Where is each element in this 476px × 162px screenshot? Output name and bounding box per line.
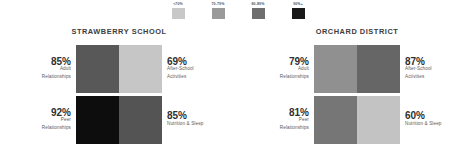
- heatmap-cell-peer-relationships[interactable]: [314, 96, 357, 144]
- cell-label-after-school-activities: 69% After-School Activities: [162, 45, 224, 93]
- cell-category-line: After-School: [167, 65, 194, 73]
- legend: <70% 70-79% 80-89% 90%+: [0, 1, 476, 19]
- legend-item: 80-89%: [246, 1, 270, 19]
- cell-category-line: Relationships: [42, 73, 71, 81]
- cell-value: 92%: [51, 109, 71, 117]
- legend-item-label: 80-89%: [252, 1, 265, 7]
- legend-swatch-80-89: [252, 8, 265, 19]
- legend-item: <70%: [166, 1, 190, 19]
- heatmap-cell-peer-relationships[interactable]: [76, 96, 119, 144]
- legend-swatch-under-70: [172, 8, 185, 19]
- cell-category-line: Adult: [298, 65, 309, 73]
- legend-swatch-70-79: [212, 8, 225, 19]
- legend-item-label: <70%: [173, 1, 183, 7]
- cell-value: 81%: [289, 109, 309, 117]
- cell-label-peer-relationships: 81% Peer Relationships: [252, 96, 314, 144]
- cell-category-line: Nutrition & Sleep: [167, 120, 204, 128]
- cell-label-peer-relationships: 92% Peer Relationships: [14, 96, 76, 144]
- heatmap-grid: 79% Adult Relationships 87% After-School…: [252, 45, 462, 144]
- legend-item-label: 70-79%: [212, 1, 225, 7]
- cell-value: 85%: [51, 58, 71, 66]
- cell-label-after-school-activities: 87% After-School Activities: [400, 45, 462, 93]
- heatmap-cell-nutrition-and-sleep[interactable]: [119, 96, 162, 144]
- heatmap-cell-nutrition-and-sleep[interactable]: [357, 96, 400, 144]
- legend-swatch-90-plus: [292, 8, 305, 19]
- cell-value: 85%: [167, 112, 187, 120]
- cell-category-line: After-School: [405, 65, 432, 73]
- cell-label-nutrition-and-sleep: 60% Nutrition & Sleep: [400, 96, 462, 144]
- cell-value: 60%: [405, 112, 425, 120]
- heatmap-cell-after-school-activities[interactable]: [119, 45, 162, 93]
- cell-category-line: Peer: [61, 116, 71, 124]
- cell-category-line: Adult: [60, 65, 71, 73]
- cell-category-line: Peer: [299, 116, 309, 124]
- cell-value: 79%: [289, 58, 309, 66]
- panel-orchard-district: ORCHARD DISTRICT 79% Adult Relationships…: [238, 27, 476, 144]
- heatmap-cell-adult-relationships[interactable]: [314, 45, 357, 93]
- legend-item: 90%+: [286, 1, 310, 19]
- panel-strawberry-school: STRAWBERRY SCHOOL 85% Adult Relationship…: [0, 27, 238, 144]
- panels-container: STRAWBERRY SCHOOL 85% Adult Relationship…: [0, 27, 476, 144]
- cell-label-adult-relationships: 85% Adult Relationships: [14, 45, 76, 93]
- cell-label-adult-relationships: 79% Adult Relationships: [252, 45, 314, 93]
- cell-category-line: Relationships: [280, 124, 309, 132]
- cell-category-line: Nutrition & Sleep: [405, 120, 442, 128]
- heatmap-cell-after-school-activities[interactable]: [357, 45, 400, 93]
- legend-item-label: 90%+: [293, 1, 303, 7]
- panel-title: ORCHARD DISTRICT: [316, 27, 399, 36]
- cell-category-line: Activities: [405, 73, 424, 81]
- legend-item: 70-79%: [206, 1, 230, 19]
- heatmap-grid: 85% Adult Relationships 69% After-School…: [14, 45, 224, 144]
- cell-value: 87%: [405, 58, 425, 66]
- cell-value: 69%: [167, 58, 187, 66]
- cell-category-line: Activities: [167, 73, 186, 81]
- cell-category-line: Relationships: [280, 73, 309, 81]
- cell-label-nutrition-and-sleep: 85% Nutrition & Sleep: [162, 96, 224, 144]
- heatmap-cell-adult-relationships[interactable]: [76, 45, 119, 93]
- cell-category-line: Relationships: [42, 124, 71, 132]
- panel-title: STRAWBERRY SCHOOL: [71, 27, 166, 36]
